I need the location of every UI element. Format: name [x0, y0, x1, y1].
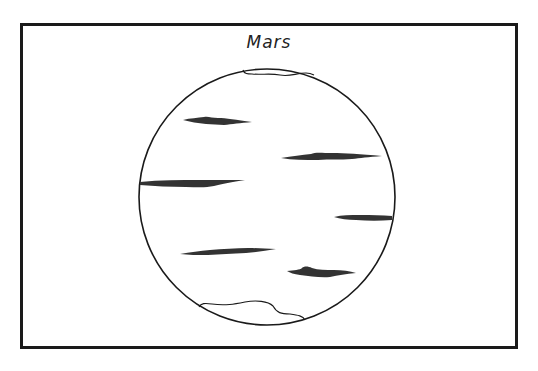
dark-surface-markings [140, 117, 392, 278]
dark-marking-icon [183, 117, 252, 125]
planet-outline [139, 69, 395, 325]
mars-planet-illustration [0, 0, 538, 371]
dark-marking-icon [140, 180, 245, 187]
dark-marking-icon [281, 153, 382, 160]
south-polar-cap-icon [199, 301, 305, 320]
dark-marking-icon [334, 215, 392, 221]
dark-marking-icon [180, 248, 276, 255]
dark-marking-icon [287, 267, 356, 278]
